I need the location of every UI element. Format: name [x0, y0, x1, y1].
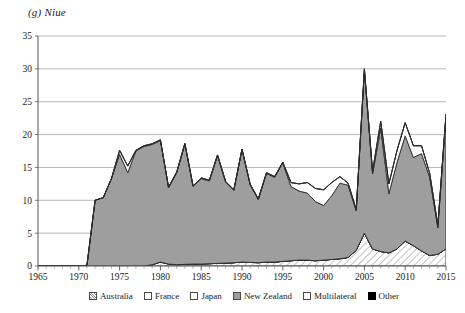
- legend-label: Japan: [201, 291, 222, 301]
- svg-text:2010: 2010: [396, 272, 415, 282]
- svg-text:2015: 2015: [437, 272, 456, 282]
- plot-area: 05101520253035 1965197019751980198519901…: [0, 0, 465, 313]
- svg-text:1995: 1995: [273, 272, 292, 282]
- svg-text:20: 20: [23, 130, 33, 140]
- legend-item-france[interactable]: France: [144, 291, 180, 301]
- x-axis-tick-labels: 1965197019751980198519901995200020052010…: [29, 272, 456, 282]
- svg-text:35: 35: [23, 31, 33, 41]
- legend-swatch-icon: [233, 292, 241, 300]
- svg-text:1985: 1985: [192, 272, 211, 282]
- legend-label: Australia: [100, 291, 133, 301]
- svg-text:1980: 1980: [151, 272, 170, 282]
- legend-item-multilateral[interactable]: Multilateral: [303, 291, 357, 301]
- x-axis-minor-ticks: [38, 266, 446, 271]
- legend-swatch-icon: [89, 292, 97, 300]
- svg-text:1965: 1965: [29, 272, 48, 282]
- svg-text:25: 25: [23, 97, 33, 107]
- svg-text:2000: 2000: [314, 272, 333, 282]
- chart-legend: AustraliaFranceJapanNew ZealandMultilate…: [38, 288, 450, 304]
- legend-swatch-icon: [303, 292, 311, 300]
- svg-text:1990: 1990: [233, 272, 252, 282]
- svg-text:5: 5: [27, 229, 32, 239]
- legend-item-australia[interactable]: Australia: [89, 291, 133, 301]
- legend-item-other[interactable]: Other: [368, 291, 400, 301]
- svg-text:15: 15: [23, 163, 33, 173]
- legend-item-new-zealand[interactable]: New Zealand: [233, 291, 292, 301]
- svg-text:0: 0: [27, 261, 32, 271]
- legend-swatch-icon: [144, 292, 152, 300]
- legend-label: Other: [379, 291, 400, 301]
- legend-swatch-icon: [368, 292, 376, 300]
- legend-label: France: [155, 291, 180, 301]
- svg-text:1975: 1975: [110, 272, 129, 282]
- svg-text:1970: 1970: [69, 272, 88, 282]
- y-axis-tick-labels: 05101520253035: [23, 31, 39, 271]
- legend-swatch-icon: [190, 292, 198, 300]
- svg-text:10: 10: [23, 196, 33, 206]
- area-chart-svg: 05101520253035 1965197019751980198519901…: [0, 0, 465, 313]
- legend-label: New Zealand: [244, 291, 292, 301]
- svg-text:30: 30: [23, 64, 33, 74]
- figure: (g) Niue: [0, 0, 465, 313]
- svg-text:2005: 2005: [355, 272, 374, 282]
- area-series-new-zealand: [38, 71, 446, 266]
- legend-label: Multilateral: [314, 291, 357, 301]
- legend-item-japan[interactable]: Japan: [190, 291, 222, 301]
